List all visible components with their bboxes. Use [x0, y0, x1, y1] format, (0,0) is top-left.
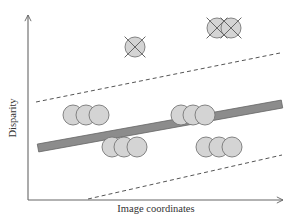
outlier-points [125, 18, 242, 58]
disparity-diagram: Image coordinates Disparity [0, 0, 302, 224]
dashed-lower-threshold [88, 155, 282, 199]
outlier-pair [207, 18, 242, 39]
inlier-point [89, 105, 109, 125]
y-axis-label: Disparity [7, 98, 18, 138]
group-left-lower [102, 137, 147, 157]
dashed-upper-threshold [36, 53, 280, 102]
inlier-point [222, 137, 242, 157]
group-mid-upper [171, 105, 215, 125]
inlier-point [195, 105, 215, 125]
diagram-canvas: Image coordinates Disparity [0, 0, 302, 224]
group-left-upper [63, 105, 109, 125]
group-right-lower [196, 137, 242, 157]
outlier-single [125, 37, 146, 58]
inlier-point [127, 137, 147, 157]
x-axis-label: Image coordinates [117, 203, 194, 214]
